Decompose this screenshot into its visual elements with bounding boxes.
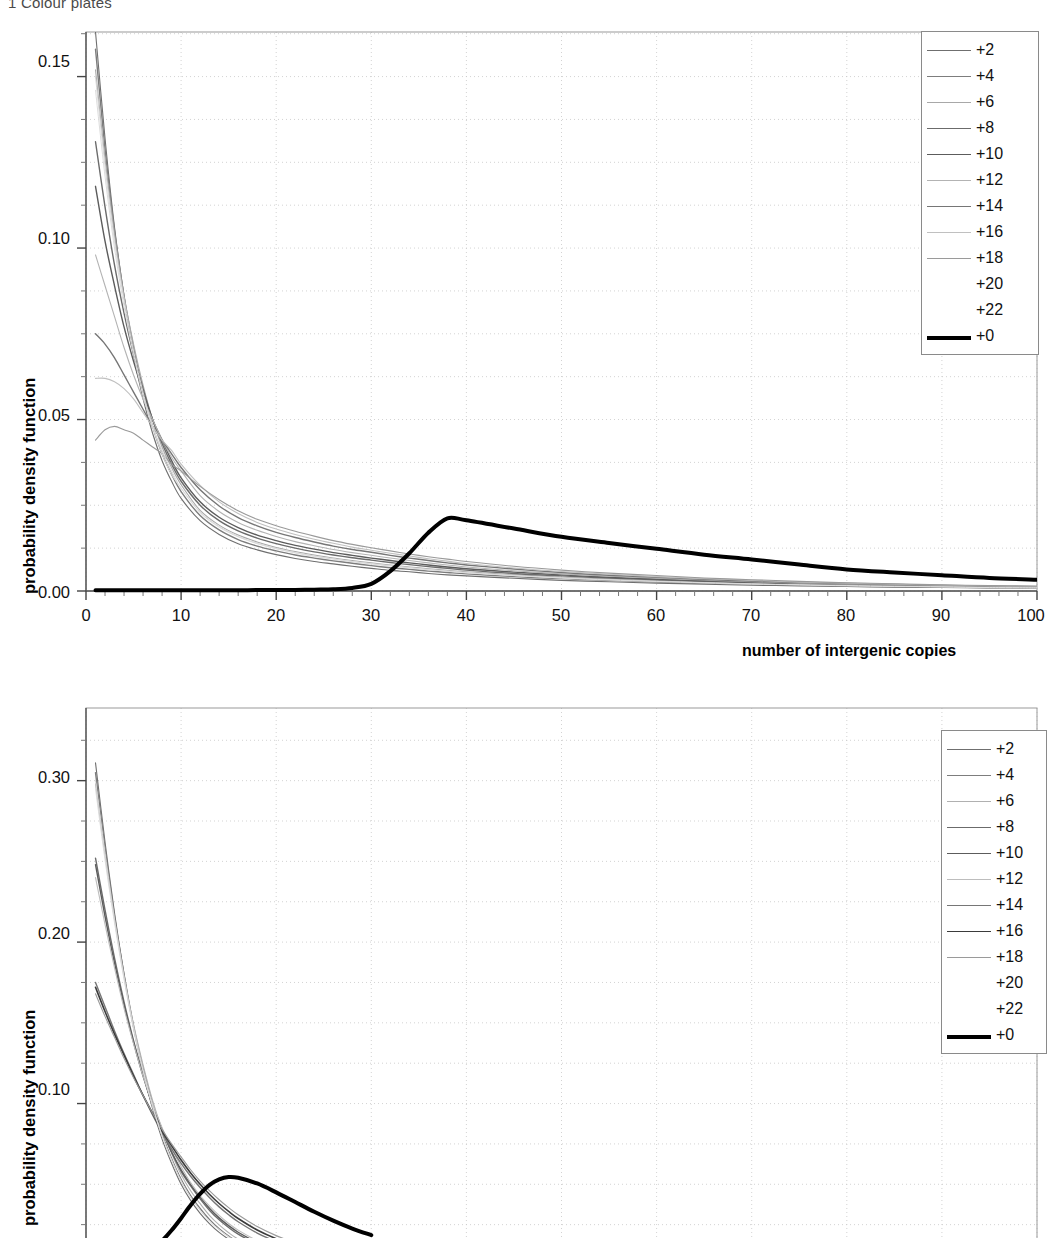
legend-item-top-plus6[interactable]: +6: [927, 89, 1030, 115]
legend-item-label: +4: [996, 767, 1032, 783]
legend-item-label: +16: [996, 923, 1032, 939]
legend-item-bottom-plus0[interactable]: +0: [947, 1022, 1038, 1048]
legend-item-top-plus22[interactable]: +22: [927, 297, 1030, 323]
legend-item-bottom-plus8[interactable]: +8: [947, 814, 1038, 840]
legend-item-top-plus2[interactable]: +2: [927, 37, 1030, 63]
series-line-plus16: [96, 378, 1037, 586]
legend-item-top-plus4[interactable]: +4: [927, 63, 1030, 89]
y-tick-top-0.00: 0.00: [22, 583, 70, 602]
legend-item-bottom-plus20[interactable]: +20: [947, 970, 1038, 996]
legend-item-top-plus10[interactable]: +10: [927, 141, 1030, 167]
legend-item-label: +10: [976, 146, 1012, 162]
x-tick-top-90: 90: [921, 606, 961, 625]
x-tick-top-40: 40: [446, 606, 486, 625]
x-tick-top-80: 80: [826, 606, 866, 625]
legend-line-icon: [947, 847, 991, 859]
legend-line-icon: [947, 1003, 991, 1015]
y-tick-top-0.10: 0.10: [22, 229, 70, 248]
legend-item-top-plus14[interactable]: +14: [927, 193, 1030, 219]
legend-item-bottom-plus6[interactable]: +6: [947, 788, 1038, 814]
legend-line-icon: [927, 252, 971, 264]
legend-item-label: +16: [976, 224, 1012, 240]
legend-item-label: +2: [976, 42, 1012, 58]
chart-panel-top: probability density function 0.15 0.10 0…: [0, 14, 1051, 674]
legend-line-icon: [947, 951, 991, 963]
legend-item-label: +10: [996, 845, 1032, 861]
legend-line-icon: [927, 44, 971, 56]
legend-item-label: +0: [996, 1027, 1032, 1043]
legend-item-label: +6: [976, 94, 1012, 110]
series-line-plus2: [96, 32, 1037, 588]
legend-item-top-plus12[interactable]: +12: [927, 167, 1030, 193]
legend-line-icon: [947, 1029, 991, 1041]
legend-item-label: +8: [996, 819, 1032, 835]
legend-item-label: +22: [996, 1001, 1032, 1017]
chart-panel-bottom: probability density function 0.30 0.20 0…: [0, 686, 1051, 1238]
x-tick-top-60: 60: [636, 606, 676, 625]
legend-line-icon: [947, 873, 991, 885]
y-tick-bottom-0.30: 0.30: [22, 768, 70, 787]
legend-line-icon: [947, 925, 991, 937]
y-tick-top-0.15: 0.15: [22, 52, 70, 71]
legend-item-bottom-plus12[interactable]: +12: [947, 866, 1038, 892]
legend-line-icon: [927, 122, 971, 134]
legend-item-bottom-plus4[interactable]: +4: [947, 762, 1038, 788]
legend-line-icon: [947, 795, 991, 807]
legend-line-icon: [927, 226, 971, 238]
legend-item-label: +2: [996, 741, 1032, 757]
series-line-plus16: [96, 987, 372, 1238]
x-tick-top-30: 30: [351, 606, 391, 625]
legend-item-label: +22: [976, 302, 1012, 318]
legend-item-bottom-plus16[interactable]: +16: [947, 918, 1038, 944]
legend-item-label: +12: [976, 172, 1012, 188]
legend-item-top-plus0[interactable]: +0: [927, 323, 1030, 349]
legend-item-label: +12: [996, 871, 1032, 887]
legend-line-icon: [947, 769, 991, 781]
y-tick-top-0.05: 0.05: [22, 406, 70, 425]
legend-item-bottom-plus22[interactable]: +22: [947, 996, 1038, 1022]
x-tick-top-70: 70: [731, 606, 771, 625]
page-header: 1 Colour plates: [8, 0, 112, 11]
legend-item-top-plus8[interactable]: +8: [927, 115, 1030, 141]
legend-item-top-plus20[interactable]: +20: [927, 271, 1030, 297]
x-tick-top-100: 100: [1010, 606, 1051, 625]
legend-item-label: +18: [976, 250, 1012, 266]
series-line-plus18: [96, 994, 372, 1238]
legend-line-icon: [927, 278, 971, 290]
y-tick-bottom-0.10: 0.10: [22, 1080, 70, 1099]
series-line-plus14: [96, 334, 1037, 587]
chart-plot-bottom: [0, 686, 1051, 1238]
series-line-plus14: [96, 982, 372, 1238]
legend-line-icon: [927, 304, 971, 316]
figure-page: 1 Colour plates probability density func…: [0, 0, 1051, 1238]
legend-item-label: +14: [976, 198, 1012, 214]
chart-plot-top: [0, 14, 1051, 674]
legend-item-top-plus16[interactable]: +16: [927, 219, 1030, 245]
x-axis-title-top: number of intergenic copies: [742, 642, 956, 660]
legend-item-top-plus18[interactable]: +18: [927, 245, 1030, 271]
legend-item-label: +6: [996, 793, 1032, 809]
x-tick-top-20: 20: [256, 606, 296, 625]
series-line-plus20: [96, 77, 1037, 588]
legend-line-icon: [947, 977, 991, 989]
series-line-plus18: [96, 426, 1037, 586]
legend-line-icon: [927, 96, 971, 108]
legend-line-icon: [927, 174, 971, 186]
series-line-plus20: [96, 781, 372, 1238]
legend-item-bottom-plus14[interactable]: +14: [947, 892, 1038, 918]
series-line-plus12: [96, 878, 372, 1238]
x-tick-top-10: 10: [161, 606, 201, 625]
y-tick-bottom-0.20: 0.20: [22, 924, 70, 943]
legend-line-icon: [947, 743, 991, 755]
series-line-plus10: [96, 186, 1037, 587]
series-line-plus8: [96, 142, 1037, 587]
legend-item-bottom-plus18[interactable]: +18: [947, 944, 1038, 970]
legend-item-label: +8: [976, 120, 1012, 136]
legend-item-bottom-plus2[interactable]: +2: [947, 736, 1038, 762]
legend-line-icon: [927, 70, 971, 82]
legend-item-label: +20: [976, 276, 1012, 292]
legend-line-icon: [927, 148, 971, 160]
legend-item-label: +0: [976, 328, 1012, 344]
legend-item-bottom-plus10[interactable]: +10: [947, 840, 1038, 866]
series-line-plus8: [96, 858, 372, 1238]
